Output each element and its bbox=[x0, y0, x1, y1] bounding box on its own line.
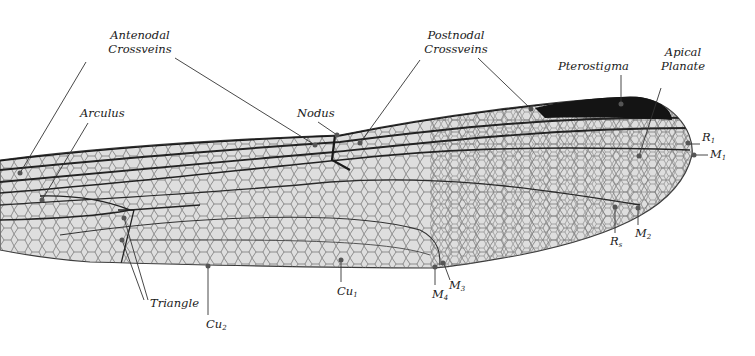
label-postnodal-crossveins: Postnodal Crossveins bbox=[424, 28, 487, 56]
label-arculus: Arculus bbox=[80, 106, 125, 120]
label-subscript: s bbox=[619, 241, 623, 249]
label-rs: Rs bbox=[610, 234, 622, 252]
label-cu2: Cu2 bbox=[206, 317, 227, 335]
label-line: Planate bbox=[661, 59, 705, 73]
label-base: M bbox=[710, 147, 722, 161]
label-antenodal-crossveins: Antenodal Crossveins bbox=[108, 28, 171, 56]
label-subscript: 1 bbox=[722, 154, 726, 162]
label-base: Cu bbox=[337, 284, 353, 298]
label-base: M bbox=[449, 278, 461, 292]
label-base: M bbox=[635, 226, 647, 240]
label-r1: R1 bbox=[702, 130, 715, 148]
label-subscript: 2 bbox=[647, 233, 651, 241]
label-m1: M1 bbox=[710, 147, 726, 165]
label-line: Antenodal bbox=[108, 28, 171, 42]
label-triangle: Triangle bbox=[150, 296, 199, 310]
label-apical-planate: Apical Planate bbox=[661, 45, 705, 73]
label-nodus: Nodus bbox=[297, 106, 335, 120]
label-base: R bbox=[610, 234, 619, 248]
label-base: R bbox=[702, 130, 711, 144]
wing-diagram: Antenodal Crossveins Postnodal Crossvein… bbox=[0, 0, 755, 356]
label-line: Postnodal bbox=[424, 28, 487, 42]
label-subscript: 1 bbox=[711, 137, 715, 145]
label-m4: M4 bbox=[432, 287, 448, 305]
label-subscript: 1 bbox=[353, 291, 357, 299]
label-base: M bbox=[432, 287, 444, 301]
label-line: Apical bbox=[661, 45, 705, 59]
label-m2: M2 bbox=[635, 226, 651, 244]
label-subscript: 3 bbox=[461, 285, 465, 293]
label-subscript: 2 bbox=[222, 324, 226, 332]
label-subscript: 4 bbox=[444, 294, 448, 302]
label-m3: M3 bbox=[449, 278, 465, 296]
label-base: Cu bbox=[206, 317, 222, 331]
label-pterostigma: Pterostigma bbox=[558, 59, 629, 73]
label-line: Crossveins bbox=[424, 42, 487, 56]
label-cu1: Cu1 bbox=[337, 284, 358, 302]
label-line: Crossveins bbox=[108, 42, 171, 56]
